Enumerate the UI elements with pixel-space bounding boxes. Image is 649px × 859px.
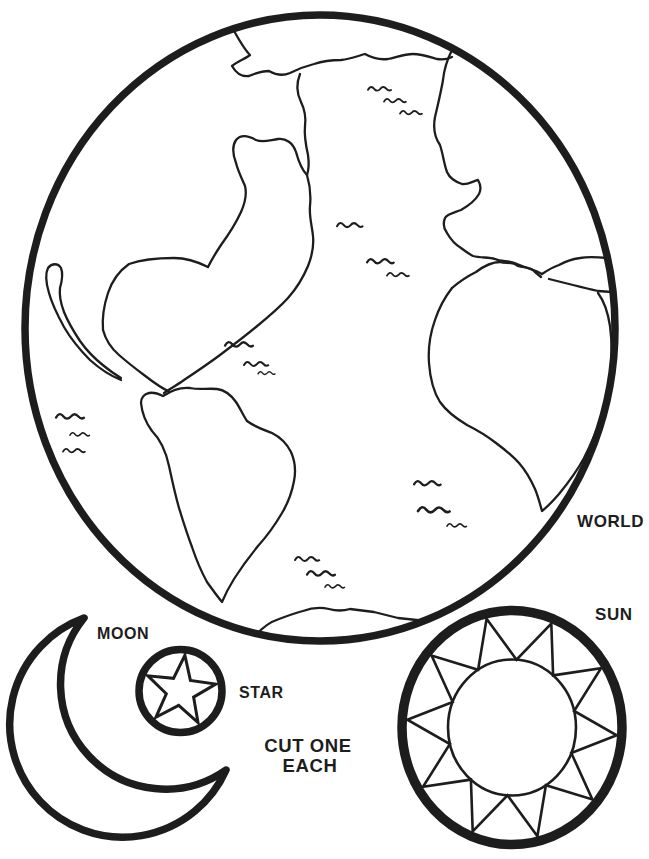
sun-label: SUN <box>595 605 633 624</box>
cut-instruction-line2: EACH <box>283 755 338 776</box>
cut-instruction: CUT ONE EACH <box>264 735 351 776</box>
world-label: WORLD <box>577 512 644 531</box>
earth-globe-icon <box>25 15 615 641</box>
craft-template-page: WORLD MOON STAR SUN CUT ONE EACH <box>0 0 649 859</box>
sun-outer-ring <box>402 611 622 845</box>
moon-label: MOON <box>97 625 149 642</box>
star-shape <box>148 655 216 722</box>
ocean-wave-marks <box>56 87 466 588</box>
star-in-circle-icon <box>139 650 222 733</box>
craft-template-drawing: WORLD MOON STAR SUN CUT ONE EACH <box>0 0 649 859</box>
cut-instruction-line1: CUT ONE <box>264 735 351 756</box>
sun-icon <box>402 611 622 845</box>
globe-outline <box>25 15 615 641</box>
continents-line-art <box>46 29 612 635</box>
sun-inner-circle <box>448 660 576 796</box>
star-label: STAR <box>239 684 284 701</box>
sun-ray-ring <box>407 619 616 836</box>
